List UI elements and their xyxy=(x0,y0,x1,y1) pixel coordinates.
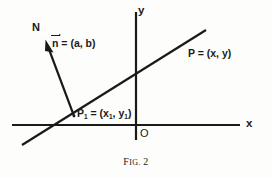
caption-smallcaps: IG. xyxy=(129,158,140,167)
figure-drawing xyxy=(0,0,272,178)
point-p1-mid: , y xyxy=(113,107,125,119)
point-p1-y-subscript: 1 xyxy=(124,113,128,120)
point-p1-label: P1 = (x1, y1) xyxy=(77,108,131,119)
x-axis-label: x xyxy=(246,118,252,130)
origin-label: O xyxy=(140,128,149,139)
point-p1-rest: = (x xyxy=(88,107,109,119)
point-p-label: P = (x, y) xyxy=(188,48,231,59)
figure-container: N n = (a, b) P = (x, y) P1 = (x1, y1) y … xyxy=(0,0,272,178)
caption-number: 2 xyxy=(143,156,148,167)
point-p1-subscript: 1 xyxy=(84,113,88,120)
normal-vector-name: n xyxy=(52,37,58,49)
point-p1-end: ) xyxy=(128,107,132,119)
vector-accent-group: n xyxy=(52,38,58,49)
point-p1-x-subscript: 1 xyxy=(109,113,113,120)
normal-vector-label: n = (a, b) xyxy=(52,38,95,49)
normal-direction-label: N xyxy=(32,22,40,33)
figure-caption: FIG. 2 xyxy=(0,156,272,167)
y-axis-label: y xyxy=(138,5,144,17)
normal-vector-components: = (a, b) xyxy=(58,37,95,49)
point-p1-marker xyxy=(73,115,76,118)
vector-arrow-accent-icon xyxy=(51,35,60,36)
point-p1-name: P xyxy=(77,107,84,119)
normal-vector-shaft xyxy=(49,48,75,116)
